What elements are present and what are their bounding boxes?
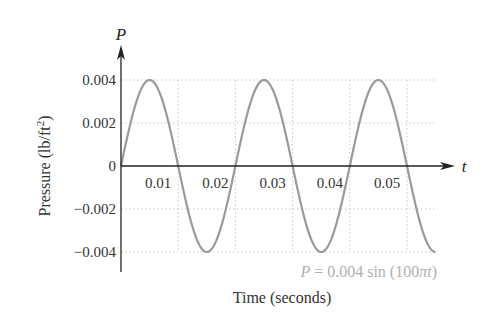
y-tick-label: −0.002 xyxy=(74,201,116,217)
chart: P t 0.0040.0020−0.002−0.004 0.010.020.03… xyxy=(0,0,482,325)
y-axis-label: Pressure (lb/ft2) xyxy=(34,115,54,216)
x-axis-var: t xyxy=(462,157,468,176)
x-tick-label: 0.04 xyxy=(317,175,344,191)
equation-label: P = 0.004 sin (100πt) xyxy=(299,263,437,281)
y-tick-label: 0 xyxy=(109,158,117,174)
x-tick-label: 0.01 xyxy=(145,175,171,191)
y-tick-label: 0.004 xyxy=(82,72,116,88)
x-tick-label: 0.03 xyxy=(259,175,285,191)
x-tick-label: 0.02 xyxy=(202,175,228,191)
x-axis-label: Time (seconds) xyxy=(233,289,332,307)
y-tick-labels: 0.0040.0020−0.002−0.004 xyxy=(74,72,117,260)
y-tick-label: −0.004 xyxy=(74,244,117,260)
x-tick-label: 0.05 xyxy=(374,175,400,191)
y-tick-label: 0.002 xyxy=(82,115,116,131)
y-axis-var: P xyxy=(115,25,126,44)
